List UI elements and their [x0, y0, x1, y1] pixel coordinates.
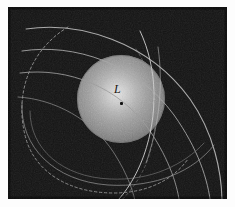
figure-plate: L — [0, 0, 235, 207]
sphere-label-L: L — [114, 83, 121, 95]
diagram-canvas: L — [8, 7, 227, 199]
sphere-center-marker — [120, 102, 123, 105]
diagram-svg — [8, 7, 227, 199]
